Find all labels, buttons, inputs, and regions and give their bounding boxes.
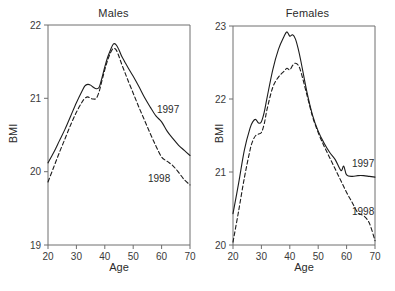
panel-males: Males BMI Age 19 20 21 22 <box>0 0 197 291</box>
panel-females-plot: 20 21 22 23 20 30 40 50 60 70 <box>198 0 395 291</box>
panel-females-ytick-22: 22 <box>215 94 227 105</box>
panel-males-series-1998-label: 1998 <box>148 173 171 184</box>
panel-females-ytick-21: 21 <box>215 167 227 178</box>
panel-females-xtick-30: 30 <box>256 251 268 262</box>
panel-males-x-ticks: 20 30 40 50 60 70 <box>42 245 196 262</box>
panel-females-xtick-60: 60 <box>341 251 353 262</box>
panel-males-xtick-20: 20 <box>42 251 54 262</box>
panel-males-series-1997-label: 1997 <box>157 104 180 115</box>
panel-females-ytick-23: 23 <box>215 21 227 32</box>
panel-males-ytick-19: 19 <box>30 240 42 251</box>
panel-males-xtick-30: 30 <box>71 251 83 262</box>
panel-females-ytick-20: 20 <box>215 240 227 251</box>
panel-males-xtick-60: 60 <box>156 251 168 262</box>
panel-males-xtick-50: 50 <box>128 251 140 262</box>
panel-females-xtick-70: 70 <box>369 251 381 262</box>
panel-females-xtick-20: 20 <box>227 251 239 262</box>
panel-males-xtick-40: 40 <box>99 251 111 262</box>
panel-males-y-ticks: 19 20 21 22 <box>30 20 48 251</box>
panel-females-series-1997-label: 1997 <box>352 158 375 169</box>
panel-females-xtick-40: 40 <box>284 251 296 262</box>
panel-males-ytick-21: 21 <box>30 93 42 104</box>
panel-males-ytick-22: 22 <box>30 20 42 31</box>
panel-females-x-ticks: 20 30 40 50 60 70 <box>227 245 381 262</box>
panel-females-xtick-50: 50 <box>313 251 325 262</box>
panel-males-plot: 19 20 21 22 20 30 40 50 60 70 <box>0 0 197 291</box>
panel-males-ytick-20: 20 <box>30 166 42 177</box>
panel-females-y-ticks: 20 21 22 23 <box>215 21 233 251</box>
panel-females-series-1998-label: 1998 <box>352 206 375 217</box>
panel-females-series-1997-line <box>233 32 375 214</box>
bmi-by-age-figure: Males BMI Age 19 20 21 22 <box>0 0 395 291</box>
panel-females: Females BMI Age 20 21 22 23 <box>198 0 395 291</box>
panel-males-xtick-70: 70 <box>184 251 196 262</box>
panel-males-series-1998-line <box>48 48 190 185</box>
